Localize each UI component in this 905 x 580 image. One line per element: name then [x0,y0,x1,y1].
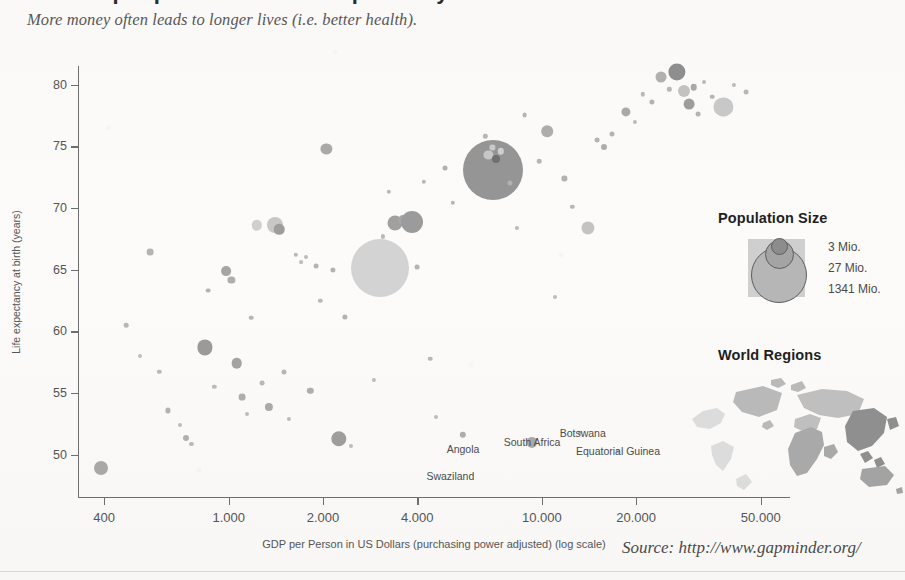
scatter-bubble[interactable] [434,415,438,419]
x-tick-label: 20.000 [616,510,656,525]
scatter-bubble[interactable] [304,255,308,259]
chart-title-clipped: Income per person and Life expectancy [0,0,905,9]
x-tick [636,498,637,505]
scatter-bubbles [78,66,790,498]
scatter-bubble[interactable] [183,435,189,441]
x-tick [417,498,418,505]
scatter-bubble[interactable] [238,393,245,400]
bottom-divider [0,571,905,572]
x-tick [229,498,230,505]
scatter-bubble[interactable] [287,417,291,421]
point-label: Swaziland [426,470,474,482]
scatter-bubble[interactable] [124,323,129,328]
scatter-bubble[interactable] [650,99,655,104]
scatter-bubble[interactable] [522,113,527,118]
scatter-bubble[interactable] [667,87,671,91]
scatter-bubble[interactable] [330,267,335,272]
scatter-bubble[interactable] [570,205,574,209]
y-tick-label: 70 [53,201,67,215]
scatter-bubble[interactable] [581,221,594,234]
scatter-bubble[interactable] [274,224,285,235]
scatter-bubble[interactable] [349,444,353,448]
scatter-bubble[interactable] [537,159,542,164]
point-label: Equatorial Guinea [576,445,660,457]
scatter-bubble[interactable] [147,249,154,256]
scatter-bubble[interactable] [260,381,265,386]
scatter-bubble[interactable] [206,288,211,293]
scatter-bubble[interactable] [601,144,607,150]
y-tick [71,146,78,147]
scatter-bubble[interactable] [595,138,600,143]
scatter-bubble[interactable] [415,265,420,270]
scatter-bubble[interactable] [514,226,518,230]
scatter-bubble[interactable] [553,295,557,299]
scatter-bubble[interactable] [621,107,630,116]
source-attribution: Source: http://www.gapminder.org/ [622,538,861,558]
scatter-bubble[interactable] [610,131,615,136]
scatter-bubble[interactable] [483,134,487,138]
scatter-bubble[interactable] [710,95,715,100]
scatter-bubble[interactable] [714,97,733,116]
scatter-bubble[interactable] [696,112,701,117]
scatter-bubble[interactable] [299,260,303,264]
y-tick [71,393,78,394]
y-tick [71,208,78,209]
scatter-bubble[interactable] [342,314,347,319]
point-label: Botswana [560,427,606,439]
scatter-bubble[interactable] [371,377,375,381]
scatter-bubble[interactable] [178,423,182,427]
scatter-bubble[interactable] [562,176,567,181]
scatter-bubble[interactable] [249,315,254,320]
scatter-bubble[interactable] [307,387,313,393]
scatter-bubble[interactable] [678,85,690,97]
scatter-bubble[interactable] [422,180,426,184]
scatter-bubble[interactable] [157,370,161,374]
scatter-bubble[interactable] [281,370,286,375]
scatter-bubble[interactable] [165,408,170,413]
scatter-bubble[interactable] [451,201,455,205]
scatter-bubble[interactable] [684,99,695,110]
scatter-bubble[interactable] [381,234,385,238]
scatter-bubble[interactable] [732,82,736,86]
population-legend-label-small: 3 Mio. [828,240,861,254]
scatter-bubble[interactable] [351,239,409,297]
scatter-bubble[interactable] [231,358,242,369]
scatter-bubble[interactable] [541,126,553,138]
scatter-bubble[interactable] [460,432,466,438]
scatter-bubble[interactable] [252,220,262,230]
scatter-bubble[interactable] [318,298,322,302]
scatter-bubble[interactable] [690,84,697,91]
scatter-bubble[interactable] [442,166,447,171]
scatter-bubble[interactable] [387,190,391,194]
scatter-bubble[interactable] [428,356,433,361]
x-axis-title: GDP per Person in US Dollars (purchasing… [262,538,605,550]
scatter-bubble[interactable] [331,431,346,446]
scatter-bubble[interactable] [212,385,216,389]
scatter-bubble[interactable] [294,253,298,257]
scatter-bubble[interactable] [668,64,685,81]
scatter-bubble[interactable] [245,412,249,416]
scatter-bubble[interactable] [264,403,272,411]
y-tick [71,331,78,332]
scatter-bubble[interactable] [197,340,212,355]
scatter-bubble[interactable] [221,266,231,276]
scatter-bubble[interactable] [94,461,108,475]
scatter-bubble[interactable] [228,276,235,283]
population-legend-title: Population Size [718,210,898,226]
y-tick-label: 50 [53,448,67,462]
scatter-bubble[interactable] [744,90,749,95]
scatter-bubble[interactable] [189,442,193,446]
scatter-bubble[interactable] [138,354,142,358]
scatter-bubble[interactable] [314,264,319,269]
chart-area: 50556065707580 4001.0002.0004.00010.0002… [0,42,905,532]
scatter-bubble[interactable] [492,155,500,163]
scatter-bubble[interactable] [401,211,423,233]
scatter-bubble[interactable] [641,92,645,96]
scatter-bubble[interactable] [655,72,666,83]
x-tick-label: 400 [93,510,115,525]
y-tick [71,270,78,271]
population-size-legend: Population Size 3 Mio. 27 Mio. 1341 Mio. [718,210,898,226]
scatter-bubble[interactable] [321,143,332,154]
scatter-bubble[interactable] [633,119,637,123]
scatter-bubble[interactable] [702,80,706,84]
